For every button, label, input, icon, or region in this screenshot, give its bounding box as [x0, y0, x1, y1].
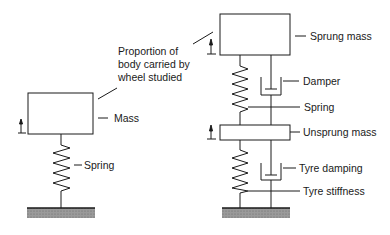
- sprung-mass-label: Sprung mass: [310, 30, 372, 42]
- sprung-displacement-arrow-icon: [207, 39, 216, 54]
- mass-block: [28, 93, 93, 134]
- sprung-mass-block: [220, 14, 290, 55]
- unsprung-mass-block: [220, 125, 290, 140]
- tyre-spring: [232, 140, 248, 208]
- right-quarter-model: [193, 14, 306, 208]
- spring-label-left: Spring: [84, 159, 115, 171]
- main-spring: [232, 55, 248, 125]
- tyre-stiffness-label: Tyre stiffness: [303, 185, 365, 197]
- ground-left: [27, 208, 95, 218]
- annotation-line-1: Proportion of: [118, 45, 178, 57]
- tyre-damping-label: Tyre damping: [299, 162, 363, 174]
- unsprung-mass-label: Unsprung mass: [303, 126, 377, 138]
- mass-label: Mass: [114, 112, 139, 124]
- annotation-line-2: body carried by: [118, 58, 191, 70]
- spring: [53, 134, 70, 208]
- displacement-arrow-icon: [18, 119, 26, 133]
- suspension-diagram: Proportion of body carried by wheel stud…: [0, 0, 390, 235]
- left-quarter-model: [18, 88, 117, 208]
- damper-label: Damper: [303, 75, 341, 87]
- spring-label-right: Spring: [304, 101, 335, 113]
- ground-right: [222, 208, 290, 218]
- annotation-line-3: wheel studied: [117, 71, 182, 83]
- unsprung-displacement-arrow-icon: [207, 125, 216, 139]
